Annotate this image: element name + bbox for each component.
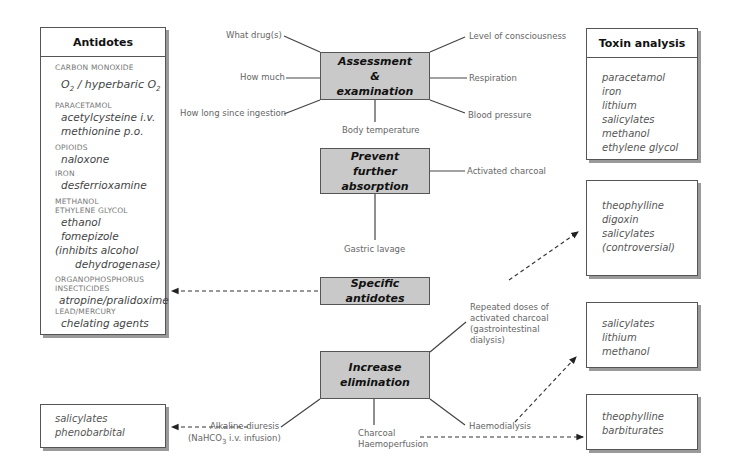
result-item: salicylates xyxy=(602,227,697,241)
toxin-label: PARACETAMOL xyxy=(55,101,165,110)
antidote-item: fomepizole xyxy=(61,229,165,243)
haemodialysis-label: Haemodialysis xyxy=(469,421,531,432)
label-line: activated charcoal xyxy=(470,313,549,324)
antidote-item: methionine p.o. xyxy=(61,124,165,138)
prevent-absorption-box: Prevent further absorption xyxy=(320,148,430,194)
antidote-item: (inhibits alcohol xyxy=(55,243,165,257)
charcoal-haemoperfusion-label: Charcoal Haemoperfusion xyxy=(358,428,428,450)
how-much-label: How much xyxy=(240,72,285,83)
alkaline-diuresis-label: Alkaline diuresis xyxy=(210,421,279,432)
toxin-label: IRON xyxy=(55,169,165,178)
result-item: barbiturates xyxy=(602,424,697,438)
toxin-item: lithium xyxy=(602,99,697,113)
respiration-label: Respiration xyxy=(469,73,517,84)
haemodialysis-results: salicylates lithium methanol xyxy=(586,302,698,368)
haemoperfusion-results: theophylline barbiturates xyxy=(586,394,698,450)
nahco3-label: (NaHCO3 i.v. infusion) xyxy=(188,433,281,448)
increase-elimination-box: Increase elimination xyxy=(320,351,430,399)
label-line: Charcoal xyxy=(358,428,428,439)
activated-charcoal-label: Activated charcoal xyxy=(467,166,546,177)
toxin-analysis-panel: Toxin analysis paracetamol iron lithium … xyxy=(586,28,698,160)
gastric-lavage-label: Gastric lavage xyxy=(344,244,405,255)
result-item: salicylates xyxy=(602,317,697,331)
label-line: Haemoperfusion xyxy=(358,439,428,450)
body-temperature-label: Body temperature xyxy=(342,125,420,136)
specific-antidotes-box: Specific antidotes xyxy=(320,277,430,305)
antidote-item: dehydrogenase) xyxy=(75,257,165,271)
toxin-item: methanol xyxy=(602,127,697,141)
toxin-label: ORGANOPHOSPHORUS xyxy=(55,275,165,284)
result-item: theophylline xyxy=(602,199,697,213)
how-long-label: How long since ingestion xyxy=(180,108,286,119)
repeated-charcoal-results: theophylline digoxin salicylates (contro… xyxy=(586,180,698,276)
toxin-label: METHANOL xyxy=(55,197,165,206)
what-drugs-label: What drug(s) xyxy=(226,30,282,41)
label-line: (gastrointestinal xyxy=(470,324,549,335)
antidote-item: acetylcysteine i.v. xyxy=(61,110,165,124)
toxin-item: paracetamol xyxy=(602,71,697,85)
antidote-item: ethanol xyxy=(61,215,165,229)
consciousness-label: Level of consciousness xyxy=(469,31,566,42)
toxin-label: OPIOIDS xyxy=(55,143,165,152)
toxin-analysis-title: Toxin analysis xyxy=(587,29,697,58)
antidote-item: desferrioxamine xyxy=(61,178,165,192)
antidotes-panel: Antidotes CARBON MONOXIDE O2 / hyperbari… xyxy=(40,27,166,335)
antidote-item: chelating agents xyxy=(61,316,165,330)
alkaline-diuresis-results: salicylates phenobarbital xyxy=(40,404,166,448)
antidote-item: naloxone xyxy=(61,152,165,166)
assessment-box: Assessment & examination xyxy=(320,52,430,100)
antidotes-title: Antidotes xyxy=(41,28,165,57)
toxin-item: salicylates xyxy=(602,113,697,127)
result-item: lithium xyxy=(602,331,697,345)
toxin-item: ethylene glycol xyxy=(602,141,697,155)
result-item: digoxin xyxy=(602,213,697,227)
result-item: methanol xyxy=(602,345,697,359)
blood-pressure-label: Blood pressure xyxy=(468,110,531,121)
result-item: (controversial) xyxy=(602,241,697,255)
result-item: salicylates xyxy=(55,412,165,426)
toxin-label: ETHYLENE GLYCOL xyxy=(55,206,165,215)
antidote-item: O2 / hyperbaric O2 xyxy=(61,78,165,96)
toxin-item: iron xyxy=(602,85,697,99)
result-item: theophylline xyxy=(602,410,697,424)
repeated-charcoal-label: Repeated doses of activated charcoal (ga… xyxy=(470,302,549,346)
toxin-label: INSECTICIDES xyxy=(55,284,165,293)
label-line: dialysis) xyxy=(470,335,549,346)
antidote-item: atropine/pralidoxime xyxy=(59,293,165,307)
label-line: Repeated doses of xyxy=(470,302,549,313)
toxin-label: LEAD/MERCURY xyxy=(55,307,165,316)
result-item: phenobarbital xyxy=(55,426,165,440)
toxin-label: CARBON MONOXIDE xyxy=(55,63,165,72)
